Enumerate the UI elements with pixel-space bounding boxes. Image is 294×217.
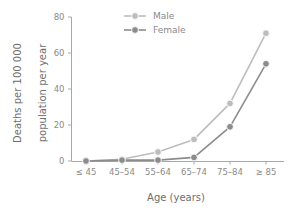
data-point <box>155 149 162 156</box>
legend-swatch-marker <box>132 13 139 20</box>
data-point <box>191 154 198 161</box>
data-point <box>263 30 270 37</box>
legend: MaleFemale <box>124 11 186 35</box>
series-layer <box>83 30 270 165</box>
x-tick-label: ≤ 45 <box>76 167 97 177</box>
y-tick-label: 40 <box>54 84 65 94</box>
data-point <box>119 157 126 164</box>
data-point <box>155 157 162 164</box>
series-line-male <box>86 33 266 161</box>
data-point <box>263 60 270 67</box>
y-tick-label: 80 <box>54 12 65 22</box>
y-tick-label: 60 <box>54 48 65 58</box>
legend-label: Male <box>153 11 175 21</box>
x-tick-label: ≥ 85 <box>256 167 277 177</box>
x-tick-label: 65–74 <box>181 167 207 177</box>
legend-label: Female <box>153 25 186 35</box>
x-axis-title: Age (years) <box>71 192 281 203</box>
data-point <box>83 158 90 165</box>
y-tick-label: 20 <box>54 120 65 130</box>
x-tick-label: 75–84 <box>217 167 243 177</box>
data-point <box>227 123 234 130</box>
x-axis-ticks: ≤ 4545–5455–6465–7475–84≥ 85 <box>76 161 277 177</box>
data-point <box>191 136 198 143</box>
y-tick-label: 0 <box>59 156 64 166</box>
x-tick-label: 55–64 <box>145 167 171 177</box>
legend-swatch-marker <box>132 27 139 34</box>
x-tick-label: 45–54 <box>109 167 135 177</box>
chart-container: Deaths per 100 000 population per year 0… <box>0 0 294 217</box>
plot-area: 020406080 ≤ 4545–5455–6465–7475–84≥ 85 M… <box>0 0 294 217</box>
y-axis-ticks: 020406080 <box>54 12 72 166</box>
data-point <box>227 100 234 107</box>
